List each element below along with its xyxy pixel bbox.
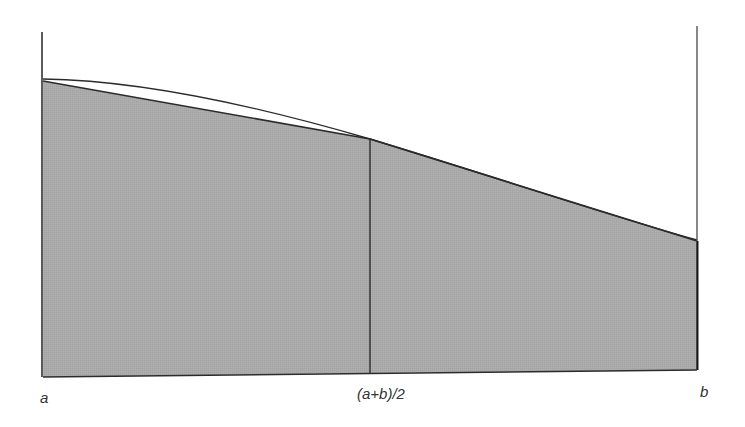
label-b: b [700, 383, 708, 400]
right-trapezoid [370, 139, 697, 373]
label-midpoint: (a+b)/2 [357, 385, 405, 402]
trapezoid-diagram [0, 0, 745, 427]
label-a: a [40, 389, 48, 406]
